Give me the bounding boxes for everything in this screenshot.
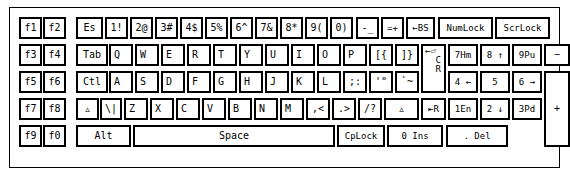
key-period[interactable]: .> [332,98,356,120]
key-f7[interactable]: f7 [19,98,42,120]
key-z[interactable]: Z [124,98,148,120]
key-m[interactable]: M [280,98,304,120]
key-minus-underscore[interactable]: -_ [356,17,379,39]
key-9[interactable]: 9( [305,17,328,39]
key-control[interactable]: Ctl [76,71,108,93]
key-comma[interactable]: ,< [306,98,330,120]
key-f9[interactable]: f9 [19,125,42,147]
key-e[interactable]: E [161,44,185,66]
key-enter[interactable]: ←⏎ C R [421,44,446,93]
key-3[interactable]: 3# [155,17,178,39]
key-capslock[interactable]: CpLock [337,125,385,147]
key-1[interactable]: 1! [105,17,128,39]
key-numpad-9-pageup[interactable]: 9Pu [512,44,542,66]
key-numpad-plus[interactable]: + [544,71,570,147]
key-g[interactable]: G [213,71,237,93]
key-backtick-tilde[interactable]: `~ [395,71,419,93]
key-c[interactable]: C [176,98,200,120]
key-b[interactable]: B [228,98,252,120]
key-4[interactable]: 4$ [180,17,203,39]
key-o[interactable]: O [317,44,341,66]
key-i[interactable]: I [291,44,315,66]
key-escape[interactable]: Es [76,17,103,39]
key-2[interactable]: 2@ [130,17,153,39]
key-numlock[interactable]: NumLock [438,17,493,39]
key-numpad-3-pagedown[interactable]: 3Pd [512,98,542,120]
key-numpad-period-delete[interactable]: . Del [446,125,508,147]
key-5[interactable]: 5% [205,17,228,39]
key-l[interactable]: L [317,71,341,93]
key-a[interactable]: A [109,71,133,93]
key-w[interactable]: W [135,44,159,66]
key-f4[interactable]: f4 [43,44,66,66]
key-numpad-8-up[interactable]: 8 ↑ [480,44,510,66]
key-numpad-7-home[interactable]: 7Hm [448,44,478,66]
key-d[interactable]: D [161,71,185,93]
key-q[interactable]: Q [109,44,133,66]
key-u[interactable]: U [265,44,289,66]
key-j[interactable]: J [265,71,289,93]
key-numpad-4-left[interactable]: 4 ← [448,71,478,93]
key-shift-right-r[interactable]: ⇤R [421,98,446,120]
key-t[interactable]: T [213,44,237,66]
key-numpad-2-down[interactable]: 2 ↓ [480,98,510,120]
key-numpad-5[interactable]: 5 [480,71,510,93]
key-f2[interactable]: f2 [43,17,66,39]
key-slash-question[interactable]: /? [358,98,382,120]
key-f0[interactable]: f0 [43,125,66,147]
key-backspace[interactable]: ←BS [406,17,435,39]
key-quote[interactable]: '" [369,71,393,93]
key-f1[interactable]: f1 [19,17,42,39]
key-h[interactable]: H [239,71,263,93]
key-f5[interactable]: f5 [19,71,42,93]
key-shift-right-triangle[interactable]: ▵ [384,98,419,120]
key-f6[interactable]: f6 [43,71,66,93]
key-8[interactable]: 8* [280,17,303,39]
enter-arrow-icon: ←⏎ [425,47,436,56]
key-backslash-pipe[interactable]: \| [100,98,122,120]
key-shift-left[interactable]: ▵ [76,98,99,120]
key-space[interactable]: Space [133,125,335,147]
key-7[interactable]: 7& [255,17,278,39]
key-scrolllock[interactable]: ScrLock [495,17,550,39]
key-v[interactable]: V [202,98,226,120]
key-semicolon[interactable]: ;: [343,71,367,93]
key-r[interactable]: R [187,44,211,66]
key-p[interactable]: P [343,44,367,66]
key-f[interactable]: F [187,71,211,93]
key-numpad-0-insert[interactable]: 0 Ins [387,125,443,147]
key-f8[interactable]: f8 [43,98,66,120]
key-numpad-6-right[interactable]: 6 → [512,71,542,93]
key-alt[interactable]: Alt [76,125,131,147]
key-0[interactable]: 0) [330,17,353,39]
keyboard-diagram-canvas: f1 f2 f3 f4 f5 f6 f7 f8 f9 f0 Es 1! 2@ 3… [0,0,570,176]
key-6[interactable]: 6^ [230,17,253,39]
key-s[interactable]: S [135,71,159,93]
key-f3[interactable]: f3 [19,44,42,66]
key-bracket-left[interactable]: [{ [369,44,393,66]
key-k[interactable]: K [291,71,315,93]
key-equals-plus[interactable]: =+ [381,17,404,39]
key-bracket-right[interactable]: ]} [395,44,419,66]
key-numpad-1-end[interactable]: 1En [448,98,478,120]
key-x[interactable]: X [150,98,174,120]
enter-label-r: R [436,65,444,74]
key-n[interactable]: N [254,98,278,120]
diagram-frame: f1 f2 f3 f4 f5 f6 f7 f8 f9 f0 Es 1! 2@ 3… [9,7,560,168]
key-tab[interactable]: Tab [76,44,108,66]
key-y[interactable]: Y [239,44,263,66]
key-numpad-minus[interactable]: − [544,44,570,66]
